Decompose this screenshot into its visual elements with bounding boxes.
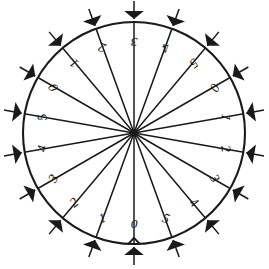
spoke-label: 4	[187, 194, 202, 210]
spoke-label: 0	[131, 216, 138, 231]
inward-arrow	[20, 63, 36, 80]
inward-arrow	[205, 32, 220, 46]
inward-arrow	[205, 220, 220, 234]
arrow-head	[233, 63, 245, 80]
spoke-label: 2	[218, 144, 234, 153]
inward-arrow	[124, 1, 144, 19]
center-hub-dot	[131, 130, 138, 137]
spoke-label: 3	[130, 35, 138, 50]
inward-arrow	[233, 63, 249, 80]
spoke-label: 1	[218, 113, 234, 122]
spoke-label: 2	[67, 194, 82, 210]
spoke-label: 1	[67, 56, 82, 72]
inward-arrow	[48, 220, 63, 234]
inward-arrow	[246, 145, 264, 164]
radial-dial-figure: 012345012345012345	[0, 0, 269, 269]
inward-arrow	[4, 145, 22, 164]
hub-layer	[131, 130, 138, 137]
spoke-label: 1	[96, 210, 107, 226]
arrow-head	[205, 33, 220, 46]
arrow-head	[205, 220, 220, 233]
spoke-label: 5	[160, 210, 172, 226]
inward-arrow	[233, 186, 249, 203]
inward-arrow	[246, 102, 264, 121]
spoke-label: 4	[160, 40, 172, 56]
spoke-label: 2	[96, 40, 108, 56]
arrow-head	[23, 186, 35, 203]
inward-arrow	[124, 247, 144, 265]
radial-dial-canvas: 012345012345012345	[0, 0, 269, 269]
inward-arrow	[167, 240, 185, 257]
arrow-head	[23, 63, 35, 80]
spoke-label: 4	[34, 144, 50, 153]
arrow-head	[233, 186, 245, 203]
spoke-label: 5	[34, 112, 50, 121]
spoke-label: 5	[186, 56, 201, 72]
inward-arrow	[167, 9, 185, 26]
inward-arrow	[48, 32, 63, 46]
inward-arrow	[83, 240, 101, 257]
arrow-head	[124, 247, 144, 255]
inward-arrow	[4, 102, 22, 121]
inward-arrow	[83, 9, 101, 26]
inward-arrow	[20, 186, 36, 203]
arrow-head	[124, 11, 144, 19]
